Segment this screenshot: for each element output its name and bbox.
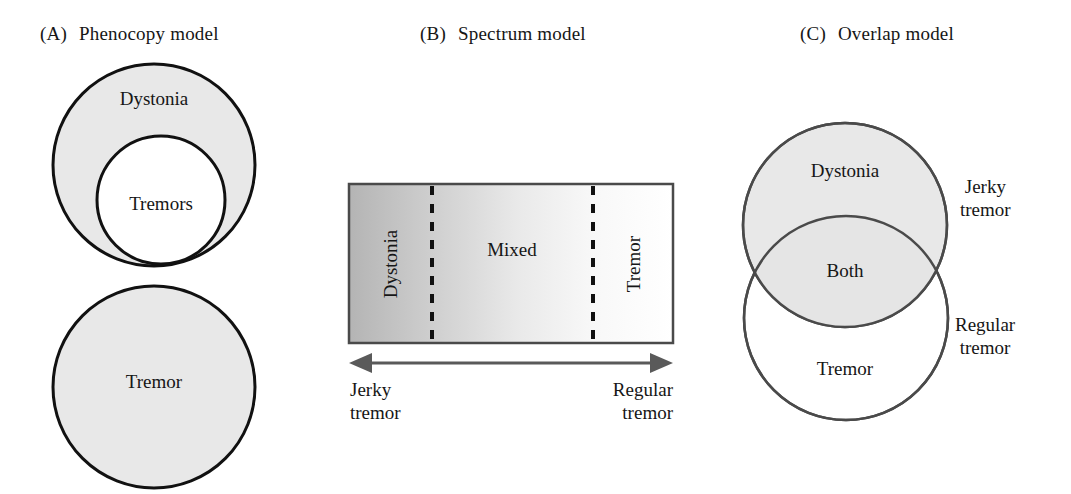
tremor-label-a: Tremor	[126, 371, 182, 393]
jerky-tremor-c-line2: tremor	[960, 199, 1011, 222]
regular-tremor-c-line1: Regular	[955, 314, 1015, 337]
dystonia-label-a: Dystonia	[120, 88, 189, 110]
dystonia-label-c: Dystonia	[811, 160, 880, 182]
dystonia-circle-c	[743, 123, 947, 327]
jerky-tremor-label-c: Jerky tremor	[960, 176, 1011, 222]
jerky-tremor-line2: tremor	[350, 402, 401, 425]
panel-a-graphics	[53, 64, 255, 488]
dystonia-band-label-b: Dystonia	[380, 230, 402, 299]
regular-tremor-c-line2: tremor	[955, 337, 1015, 360]
panel-c-tag: (C)	[800, 23, 826, 44]
jerky-tremor-label-b: Jerky tremor	[350, 379, 401, 425]
tremor-label-c: Tremor	[817, 358, 873, 380]
panel-a-title: (A)Phenocopy model	[40, 23, 219, 45]
regular-tremor-line2: tremor	[575, 402, 673, 425]
tremors-label-a: Tremors	[129, 193, 193, 215]
figure-root: (A)Phenocopy model Dystonia Tremors Trem…	[0, 0, 1071, 494]
spectrum-axis-arrow	[349, 353, 673, 373]
panel-a-title-text: Phenocopy model	[79, 23, 219, 44]
tremor-circle-c-outline	[744, 216, 948, 420]
jerky-tremor-c-line1: Jerky	[960, 176, 1011, 199]
dystonia-circle-c-outline	[743, 123, 947, 327]
both-intersection-c	[744, 216, 948, 420]
panel-c-title-text: Overlap model	[838, 23, 954, 44]
regular-tremor-line1: Regular	[575, 379, 673, 402]
tremor-band-label-b: Tremor	[623, 236, 645, 292]
both-label-c: Both	[827, 260, 864, 282]
mixed-band-label-b: Mixed	[487, 239, 537, 261]
panel-b-tag: (B)	[420, 23, 446, 44]
regular-tremor-label-b: Regular tremor	[575, 379, 673, 425]
jerky-tremor-line1: Jerky	[350, 379, 401, 402]
panel-b-title: (B)Spectrum model	[420, 23, 586, 45]
regular-tremor-label-c: Regular tremor	[955, 314, 1015, 360]
panel-c-title: (C)Overlap model	[800, 23, 954, 45]
panel-a-tag: (A)	[40, 23, 67, 44]
tremor-circle-c	[744, 216, 948, 420]
panel-b-title-text: Spectrum model	[458, 23, 586, 44]
